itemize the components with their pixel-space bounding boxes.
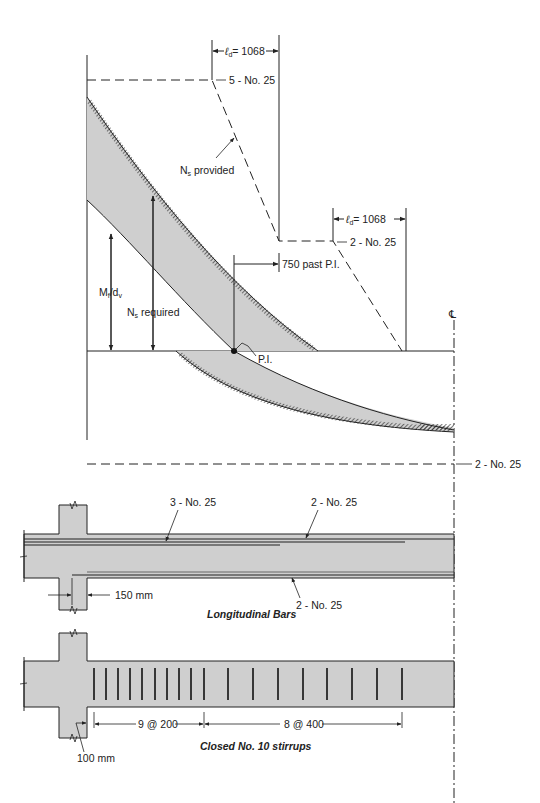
pi-label: P.I. xyxy=(258,353,272,365)
top-bars-left-label: 3 - No. 25 xyxy=(170,496,216,508)
bars-top-label: 5 - No. 25 xyxy=(229,74,275,86)
mu-dv-label: Mf/dv xyxy=(99,286,122,299)
longitudinal-caption: Longitudinal Bars xyxy=(207,608,296,620)
lower-envelope-band xyxy=(176,351,454,432)
bars-mid-label: 2 - No. 25 xyxy=(350,236,396,248)
offset-150-label: 150 mm xyxy=(115,589,153,601)
spacing1-label: 9 @ 200 xyxy=(138,718,178,730)
centerline-symbol: ℄ xyxy=(448,308,456,320)
longitudinal-bars-panel: 3 - No. 25 2 - No. 25 2 - No. 25 150 mm … xyxy=(20,496,454,620)
offset-100-label: 100 mm xyxy=(77,752,115,764)
lower-hatch-end xyxy=(420,424,454,430)
ns-provided-leader xyxy=(216,138,234,158)
ld-top-label: ℓd= 1068 xyxy=(224,45,265,58)
past-pi-label: 750 past P.I. xyxy=(282,258,340,270)
stirrup-beam-outline xyxy=(24,633,454,738)
upper-envelope-band xyxy=(87,97,318,351)
ns-required-label: Ns required xyxy=(127,306,180,319)
bottom-bars-label: 2 - No. 25 xyxy=(475,458,521,470)
ld-mid-label: ℓd= 1068 xyxy=(345,213,386,226)
bottom-bars-leader-2 xyxy=(292,578,300,598)
beam-reinforcement-diagram: ℄ P.I. ℓd= 1068 5 - No. 25 Ns provided xyxy=(0,0,540,803)
beam-column-outline xyxy=(24,505,454,610)
stirrups-caption: Closed No. 10 stirrups xyxy=(200,740,312,752)
spacing2-label: 8 @ 400 xyxy=(284,718,324,730)
bottom-bars-label-2: 2 - No. 25 xyxy=(296,599,342,611)
top-bars-right-label: 2 - No. 25 xyxy=(311,496,357,508)
ns-provided-label: Ns provided xyxy=(180,164,234,177)
stirrups-panel: 9 @ 200 8 @ 400 100 mm Closed No. 10 sti… xyxy=(20,629,454,764)
